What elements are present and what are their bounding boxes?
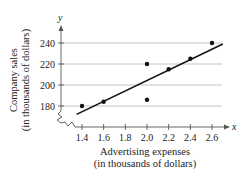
data-points — [80, 41, 214, 108]
y-tick-label: 240 — [40, 38, 55, 49]
y-axis-title: Company sales (in thousands of dollars) — [2, 32, 38, 128]
data-point — [145, 62, 149, 66]
best-fit-line — [77, 44, 223, 114]
data-point — [101, 100, 105, 104]
x-axis-label: Advertising expenses — [60, 146, 230, 158]
x-tick-label: 2.0 — [141, 132, 154, 143]
x-tick-label: 1.6 — [97, 132, 110, 143]
y-tick-label: 180 — [40, 101, 55, 112]
data-point — [145, 98, 149, 102]
x-tick-label: 2.6 — [206, 132, 219, 143]
axes: xy — [57, 12, 237, 132]
x-tick-label: 1.4 — [76, 132, 89, 143]
data-point — [188, 57, 192, 61]
x-tick-label: 2.4 — [184, 132, 197, 143]
regression-line — [77, 44, 223, 114]
x-axis-arrow — [224, 125, 230, 130]
data-point — [210, 41, 214, 45]
gridlines — [61, 43, 222, 106]
y-axis-label: Company sales — [8, 29, 20, 131]
axis-break-squiggle — [57, 111, 75, 127]
x-tick-label: 1.8 — [119, 132, 132, 143]
x-axis-title: Advertising expenses (in thousands of do… — [60, 146, 230, 170]
x-axis-symbol: x — [231, 121, 237, 132]
data-point — [80, 104, 84, 108]
y-tick-label: 200 — [40, 80, 55, 91]
y-axis-sublabel: (in thousands of dollars) — [20, 29, 32, 131]
x-axis-sublabel: (in thousands of dollars) — [60, 158, 230, 170]
y-axis-arrow — [59, 25, 64, 31]
y-axis-symbol: y — [57, 12, 63, 23]
y-tick-label: 220 — [40, 59, 55, 70]
data-point — [166, 67, 170, 71]
x-tick-label: 2.2 — [162, 132, 175, 143]
